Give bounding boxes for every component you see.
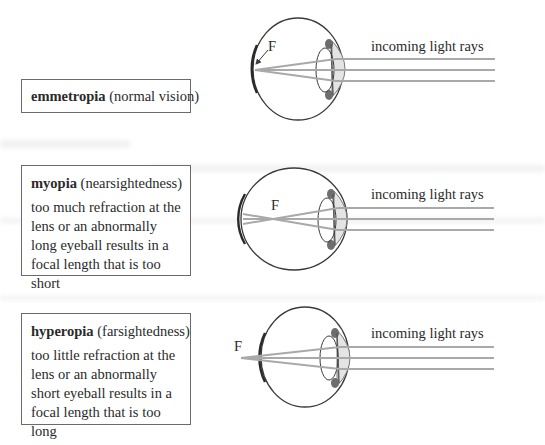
focal-point-label: F [234, 338, 242, 354]
emmetropia-eye-diagram: F incoming light rays [252, 18, 495, 120]
incoming-light-rays-label: incoming light rays [371, 38, 484, 54]
focal-point-label: F [268, 38, 276, 54]
hyperopia-eye-diagram: F incoming light rays [234, 307, 494, 407]
eye-diagrams: F incoming light rays F incoming light r… [0, 0, 545, 445]
incoming-light-rays-label: incoming light rays [371, 325, 484, 341]
myopia-eye-diagram: F incoming light rays [238, 168, 494, 270]
focal-point-label: F [271, 197, 279, 213]
incoming-light-rays-label: incoming light rays [371, 186, 484, 202]
